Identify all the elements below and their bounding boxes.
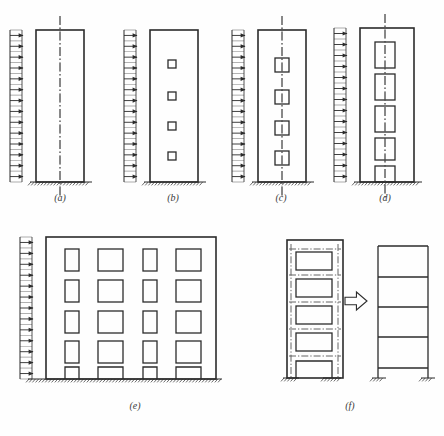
lateral-load-arrow-head [29, 240, 34, 244]
panel-b [124, 30, 206, 185]
lateral-load-arrow [232, 77, 246, 81]
panel-f-equivalent-frame [370, 246, 435, 381]
lateral-load-arrow [124, 77, 138, 81]
lateral-load-arrow [334, 174, 348, 178]
wall-door-opening [143, 367, 157, 379]
lateral-load-arrow [20, 306, 34, 310]
lateral-load-arrow [10, 142, 24, 146]
lateral-load-arrow-head [133, 66, 138, 70]
lateral-load-arrow-head [343, 75, 348, 79]
lateral-load-arrow [20, 361, 34, 365]
wall-opening [296, 279, 332, 297]
frame-support-left-hatch [376, 378, 379, 381]
lateral-load-arrow [334, 163, 348, 167]
lateral-load-arrow [20, 284, 34, 288]
wall-door-opening [176, 367, 201, 379]
lateral-load-arrow-head [241, 164, 246, 168]
lateral-load-arrow-head [133, 174, 138, 178]
lateral-load-arrow [232, 120, 246, 124]
lateral-load-arrow [232, 66, 246, 70]
lateral-load-arrow [124, 55, 138, 59]
lateral-load-arrow [232, 174, 246, 178]
panel-c [232, 16, 314, 196]
lateral-load-arrow-head [19, 153, 24, 157]
lateral-load-arrow [232, 33, 246, 37]
lateral-load-arrow [334, 42, 348, 46]
fixed-base-support-hatch [36, 379, 39, 382]
lateral-load-arrow [10, 109, 24, 113]
lateral-load-arrow-head [19, 120, 24, 124]
lateral-load-arrow-head [133, 88, 138, 92]
wall-outline [150, 30, 198, 182]
lateral-load-arrow [10, 98, 24, 102]
frame-support-left-hatch [370, 378, 373, 381]
lateral-load-arrow [124, 153, 138, 157]
lateral-load-arrow [334, 31, 348, 35]
structural-wall-figure [0, 0, 444, 436]
wall-opening [98, 311, 123, 333]
lateral-load-arrow [334, 86, 348, 90]
fixed-base-support-hatch [86, 182, 89, 185]
lateral-load-arrow [20, 273, 34, 277]
lateral-load-arrow [20, 295, 34, 299]
lateral-load-arrow [334, 97, 348, 101]
lateral-load-arrow [232, 98, 246, 102]
panel-e [20, 237, 222, 382]
lateral-load-arrow [232, 153, 246, 157]
lateral-load-arrow-head [133, 44, 138, 48]
lateral-load-arrow [10, 55, 24, 59]
lateral-load-arrow [10, 66, 24, 70]
lateral-load-arrow-head [241, 109, 246, 113]
lateral-load-arrow-head [19, 109, 24, 113]
lateral-load-arrow-head [29, 371, 34, 375]
lateral-load-arrow-head [343, 108, 348, 112]
lateral-load-arrow-head [29, 350, 34, 354]
wall-opening [65, 249, 79, 271]
panel-a [10, 16, 92, 196]
fixed-base-support-hatch [250, 182, 253, 185]
lateral-load-arrow-head [29, 262, 34, 266]
lateral-load-arrow [124, 33, 138, 37]
lateral-load-arrow-head [343, 141, 348, 145]
wall-opening [65, 311, 79, 333]
lateral-load-arrow [124, 131, 138, 135]
fixed-base-support-hatch [31, 182, 34, 185]
lateral-load-arrow-head [343, 119, 348, 123]
lateral-load-arrow [20, 328, 34, 332]
lateral-load-arrow-head [29, 306, 34, 310]
lateral-load-arrow-head [19, 98, 24, 102]
lateral-load-arrow-head [19, 44, 24, 48]
wall-opening [98, 341, 123, 363]
lateral-load-arrow [334, 108, 348, 112]
frame-support-right-hatch [425, 378, 428, 381]
lateral-load-arrow [124, 66, 138, 70]
panel-f [281, 240, 435, 381]
frame-support-left-hatch [380, 378, 383, 381]
panel-label-c: (c) [261, 192, 301, 203]
fixed-base-support-hatch [253, 182, 256, 185]
support-left-hatch [281, 378, 284, 381]
lateral-load-arrow [232, 88, 246, 92]
lateral-load-arrow [232, 142, 246, 146]
wall-opening [168, 92, 176, 100]
lateral-load-arrow-head [19, 164, 24, 168]
lateral-load-arrow-head [241, 142, 246, 146]
lateral-load-arrow [232, 44, 246, 48]
lateral-load-arrow-head [241, 44, 246, 48]
lateral-load-arrow-head [19, 33, 24, 37]
lateral-load-arrow [232, 55, 246, 59]
lateral-load-arrow-head [241, 98, 246, 102]
lateral-load-arrow [124, 142, 138, 146]
panel-label-e: (e) [115, 400, 155, 411]
lateral-load-arrow-head [19, 77, 24, 81]
wall-opening [65, 341, 79, 363]
fixed-base-support-hatch [218, 379, 221, 382]
lateral-load-arrow [232, 164, 246, 168]
panel-f-pierced-wall [281, 240, 343, 381]
lateral-load-arrow-head [133, 33, 138, 37]
wall-opening [168, 60, 176, 68]
fixed-base-support-hatch [29, 379, 32, 382]
panel-d [334, 14, 422, 200]
wall-outline [360, 28, 414, 182]
lateral-load-arrow-head [133, 77, 138, 81]
